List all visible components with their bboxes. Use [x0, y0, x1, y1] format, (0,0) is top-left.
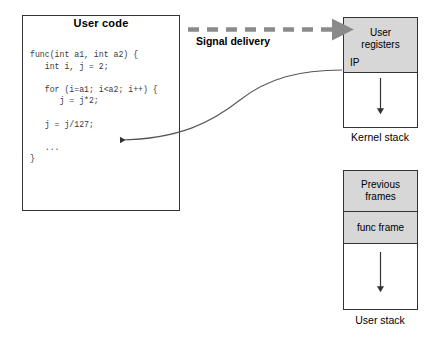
user-previous-line2: frames	[365, 191, 396, 203]
kernel-registers-line1: User	[370, 27, 391, 39]
kernel-user-registers-cell: User registers IP	[344, 18, 417, 73]
user-code-title: User code	[22, 17, 180, 29]
user-stack-caption: User stack	[320, 314, 440, 326]
kernel-stack-caption: Kernel stack	[320, 131, 440, 143]
kernel-registers-line2: registers	[361, 39, 399, 51]
user-func-frame-cell: func frame	[344, 212, 417, 244]
signal-delivery-label: Signal delivery	[196, 35, 270, 47]
user-previous-line1: Previous	[361, 179, 400, 191]
user-code-listing: func(int a1, int a2) { int i, j = 2; for…	[30, 49, 158, 165]
user-previous-frames-cell: Previous frames	[344, 171, 417, 212]
kernel-stack-box: User registers IP	[343, 17, 418, 128]
user-stack-box: Previous frames func frame	[343, 170, 418, 310]
kernel-ip-label: IP	[350, 57, 359, 69]
kernel-free-space-cell	[344, 73, 417, 129]
user-free-space-cell	[344, 244, 417, 311]
user-func-frame-label: func frame	[357, 222, 404, 234]
signal-delivery-diagram: User code func(int a1, int a2) { int i, …	[0, 0, 443, 344]
